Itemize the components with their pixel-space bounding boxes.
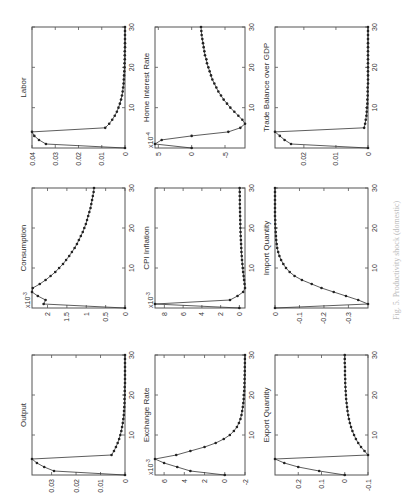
y-tick-label: 0.02: [300, 152, 307, 166]
data-marker: [343, 474, 346, 477]
y-tick-label: 0.04: [29, 152, 36, 166]
data-marker: [87, 215, 90, 218]
data-marker: [71, 251, 74, 254]
data-marker: [242, 398, 245, 401]
data-marker: [367, 70, 370, 73]
data-marker: [154, 303, 157, 306]
data-marker: [367, 30, 370, 33]
data-marker: [353, 434, 356, 437]
data-marker: [92, 191, 95, 194]
chart-title: CPI Inflation: [142, 226, 151, 270]
data-marker: [58, 267, 61, 270]
data-marker: [274, 203, 277, 206]
y-tick-label: 0.02: [75, 152, 82, 166]
data-marker: [206, 62, 209, 65]
data-marker: [49, 275, 52, 278]
data-marker: [118, 438, 121, 441]
data-marker: [124, 382, 127, 385]
y-tick-label: 4: [181, 479, 188, 483]
y-tick-label: 6: [180, 312, 187, 316]
data-marker: [214, 442, 217, 445]
data-marker: [43, 466, 46, 469]
data-marker: [347, 414, 350, 417]
y-tick-label: 0.03: [48, 479, 55, 493]
x-tick-label: 20: [371, 63, 378, 71]
data-marker: [124, 354, 127, 357]
y-tick-label: 0.02: [73, 479, 80, 493]
data-marker: [366, 94, 369, 97]
x-tick-label: 20: [128, 224, 135, 232]
data-marker: [344, 382, 347, 385]
data-marker: [274, 191, 277, 194]
data-marker: [123, 54, 126, 57]
data-marker: [233, 110, 236, 113]
data-marker: [332, 291, 335, 294]
data-marker: [239, 231, 242, 234]
data-marker: [367, 58, 370, 61]
data-marker: [124, 370, 127, 373]
data-marker: [104, 127, 107, 130]
x-tick-label: 20: [248, 224, 255, 232]
data-marker: [88, 211, 91, 214]
data-marker: [274, 231, 277, 234]
data-marker: [367, 74, 370, 77]
data-marker: [365, 110, 368, 113]
data-marker: [364, 123, 367, 126]
y-tick-label: -5: [222, 152, 229, 158]
data-marker: [68, 255, 71, 258]
data-marker: [233, 430, 236, 433]
x-tick-label: 10: [248, 264, 255, 272]
data-marker: [345, 398, 348, 401]
data-marker: [208, 70, 211, 73]
data-marker: [229, 299, 232, 302]
y-tick-label: 0: [122, 479, 129, 483]
data-marker: [344, 370, 347, 373]
data-marker: [229, 434, 232, 437]
data-marker: [89, 207, 92, 210]
data-marker: [38, 139, 41, 142]
data-marker: [357, 442, 360, 445]
data-marker: [124, 46, 127, 49]
data-marker: [283, 139, 286, 142]
data-marker: [85, 223, 88, 226]
data-marker: [357, 299, 360, 302]
x-tick-label: 30: [248, 184, 255, 192]
data-marker: [241, 259, 244, 262]
data-marker: [154, 143, 157, 146]
data-marker: [189, 470, 192, 473]
data-marker: [73, 247, 76, 250]
exponent-label: x10-3: [145, 292, 154, 308]
data-marker: [367, 454, 370, 457]
data-marker: [277, 251, 280, 254]
x-tick-label: 30: [248, 351, 255, 359]
data-marker: [280, 259, 283, 262]
data-marker: [117, 106, 120, 109]
data-marker: [200, 30, 203, 33]
data-marker: [38, 283, 41, 286]
data-marker: [243, 283, 246, 286]
data-marker: [363, 127, 366, 130]
data-marker: [243, 366, 246, 369]
data-marker: [124, 26, 127, 29]
data-marker: [123, 394, 126, 397]
data-marker: [367, 303, 370, 306]
data-marker: [54, 271, 57, 274]
x-tick-label: 10: [248, 104, 255, 112]
data-marker: [350, 426, 353, 429]
x-tick-label: 10: [371, 104, 378, 112]
y-tick-label: 2: [201, 479, 208, 483]
data-marker: [244, 362, 247, 365]
data-marker: [274, 215, 277, 218]
y-tick-label: 0.5: [102, 312, 109, 322]
data-marker: [154, 458, 157, 461]
data-marker: [200, 34, 203, 37]
data-marker: [36, 462, 39, 465]
data-marker: [310, 283, 313, 286]
data-marker: [274, 187, 277, 190]
data-marker: [244, 358, 247, 361]
data-marker: [123, 50, 126, 53]
data-marker: [301, 279, 304, 282]
chart-export-quantity: 102030-0.100.10.2Export Quantity: [262, 351, 378, 491]
chart-title: Export Quantity: [262, 387, 271, 442]
data-marker: [44, 279, 47, 282]
